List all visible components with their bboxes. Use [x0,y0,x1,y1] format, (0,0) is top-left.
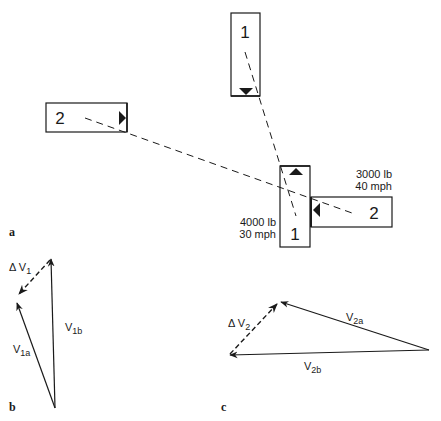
label-delta-v2: Δ V2 [228,317,250,332]
vehicle-2-front-marker-icon [119,111,126,125]
vector-v2a [281,302,429,350]
collision-diagram: 1 2 1 4000 lb 30 mph 2 3000 lb [0,0,441,421]
panel-a: 1 2 1 4000 lb 30 mph 2 3000 lb [9,13,392,247]
panel-label-a: a [9,225,15,239]
vehicle-2-pre-impact: 2 [46,103,127,132]
vector-delta-v2 [230,304,277,354]
vehicle-2-impact-front-marker-icon [313,203,320,217]
vector-v1b [51,259,55,408]
panel-label-c: c [221,400,227,414]
label-v2b: V2b [304,360,321,375]
panel-b: Δ V1 V1b V1a b [9,259,82,414]
label-v1a: V1a [13,343,30,358]
trajectory-vehicle-1 [245,52,296,216]
panel-c: Δ V2 V2a V2b c [221,302,429,414]
label-delta-v1: Δ V1 [9,261,31,276]
vehicle-2-pre-number: 2 [55,109,64,128]
label-v1b: V1b [65,321,82,336]
vehicle-2-speed: 40 mph [355,180,392,192]
vehicle-2-weight: 3000 lb [356,168,392,180]
vehicle-1-front-marker-icon [239,88,253,95]
vehicle-1-weight: 4000 lb [240,216,276,228]
vehicle-1-impact-front-marker-icon [289,168,303,175]
vehicle-1-impact: 1 4000 lb 30 mph [239,166,310,247]
vehicle-2-impact-number: 2 [369,204,378,223]
vector-v2b [230,350,429,355]
vehicle-1-speed: 30 mph [239,228,276,240]
vehicle-2-impact: 2 3000 lb 40 mph [311,168,392,227]
panel-label-b: b [9,400,16,414]
vehicle-1-impact-number: 1 [290,225,299,244]
vehicle-1-pre-number: 1 [240,23,249,42]
